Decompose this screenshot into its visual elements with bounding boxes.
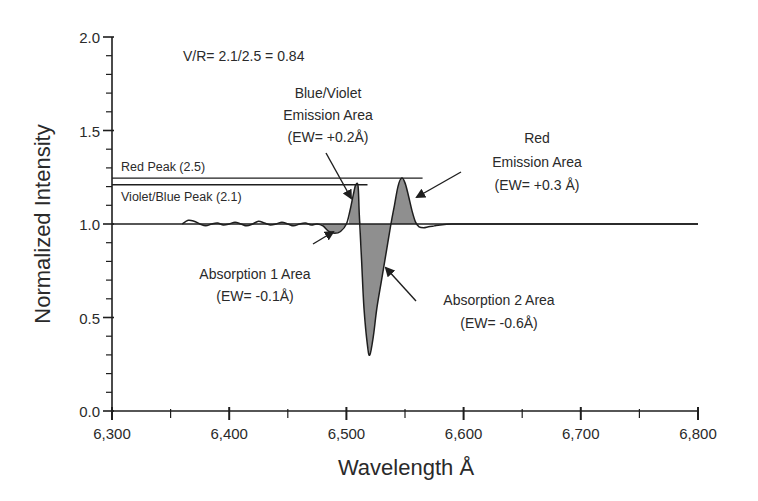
blue-violet-annotation-line1: Blue/Violet [295,85,362,101]
x-tick-label: 6,800 [679,425,717,442]
shaded-areas [323,178,417,355]
y-axis-title: Normalized Intensity [30,124,55,323]
absorption-2-area [360,224,390,355]
absorption1-annotation-line1: Absorption 1 Area [199,266,311,282]
absorption2-annotation-line1: Absorption 2 Area [443,292,555,308]
absorption1-arrow [313,232,333,244]
x-tick-label: 6,400 [210,425,248,442]
absorption2-arrow [386,268,416,301]
absorption2-annotation-line2: (EW= -0.6Å) [460,315,537,331]
x-tick-label: 6,500 [328,425,366,442]
y-tick-label: 0.0 [79,403,100,420]
x-axis-title: Wavelength Å [338,455,474,480]
y-tick-label: 0.5 [79,310,100,327]
red-annotation-line2: Emission Area [492,154,582,170]
y-tick-label: 1.5 [79,123,100,140]
spectrum-chart: 6,3006,4006,5006,6006,7006,8000.00.51.01… [0,0,758,501]
axis-ticks: 6,3006,4006,5006,6006,7006,8000.00.51.01… [79,29,717,442]
y-tick-label: 2.0 [79,29,100,46]
blue-violet-arrow [326,153,351,198]
red-peak-label: Red Peak (2.5) [121,160,205,174]
red-arrow [417,172,461,197]
x-tick-label: 6,700 [562,425,600,442]
axes [112,37,698,413]
x-tick-label: 6,600 [445,425,483,442]
vr-ratio-annotation: V/R= 2.1/2.5 = 0.84 [183,48,305,64]
blue-violet-annotation-line3: (EW= +0.2Å) [288,129,369,145]
x-tick-label: 6,300 [93,425,131,442]
red-annotation-line1: Red [524,130,550,146]
blue-violet-annotation-line2: Emission Area [283,107,373,123]
red-annotation-line3: (EW= +0.3 Å) [495,177,580,193]
absorption1-annotation-line2: (EW= -0.1Å) [216,288,293,304]
y-tick-label: 1.0 [79,216,100,233]
violet-blue-peak-label: Violet/Blue Peak (2.1) [121,190,242,204]
